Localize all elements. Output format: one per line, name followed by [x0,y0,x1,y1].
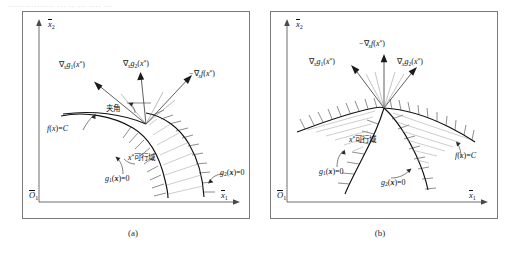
figure-panel-b: x2 O1 x1 −∇xf(x*) ∇xg1(x*) ∇xg2(x*) f(x)… [270,11,498,219]
panel-a-label-grad-g1: ∇xg1(x*) [59,61,85,70]
cut-off-header-text: ................ ... .. ... .... ... [8,0,238,7]
panel-b-label-feasible-region: x*可行域 [349,136,376,144]
panel-a-label-g2-constraint: g2(x)=0 [220,169,245,178]
panel-a-label-grad-g2: ∇xg2(x*) [123,60,149,69]
panel-a-drawing [23,12,249,218]
figure-root: ................ ... .. ... .... ... [0,0,518,254]
panel-b-curve-g1-down [345,108,384,194]
panel-b-x-axis-label: x1 [469,191,476,201]
panel-b-origin-label: O1 [277,191,286,201]
panel-a-label-level-curve: f(x)=C [47,125,68,133]
panel-b-label-neg-grad-f: −∇xf(x*) [359,40,385,49]
panel-b-y-axis-label: x2 [296,20,303,30]
panel-a-label-g1-constraint: g1(x)=0 [105,175,130,184]
panel-b-label-level-curve: f(x)=C [455,152,476,160]
panel-a-gradient-arrows [94,72,192,124]
panel-b-label-grad-g1: ∇xg1(x*) [309,58,335,67]
panel-b-region-shading [307,111,469,163]
panel-a-axes [36,19,240,205]
panel-b-g2-leader [391,170,410,178]
panel-a-label-neg-grad-f: −∇xf(x*) [189,70,215,79]
panel-b-label-g2-constraint: g2(x)=0 [381,179,406,188]
panel-b-label-g1-constraint: g1(x)=0 [319,168,344,177]
panel-b-curve-g1 [297,107,384,132]
panel-b-label-grad-g2: ∇xg2(x*) [397,58,423,67]
panel-a-y-axis-label: x2 [48,20,55,30]
panel-a-origin-label: O1 [29,191,38,201]
panel-b-curve-level [384,108,475,142]
panel-b-caption: (b) [360,228,400,238]
panel-b-axes [284,19,488,205]
panel-a-label-feasible-region: x*可行域 [128,154,155,162]
figure-panel-a: x2 O1 x1 ∇xg1(x*) ∇xg2(x*) −∇xf(x*) 夹角 f… [22,11,250,219]
panel-a-hatching-g2 [153,110,215,192]
panel-a-label-angle: 夹角 [106,105,120,113]
panel-a-x-axis-label: x1 [221,191,228,201]
panel-a-caption: (a) [113,228,153,238]
